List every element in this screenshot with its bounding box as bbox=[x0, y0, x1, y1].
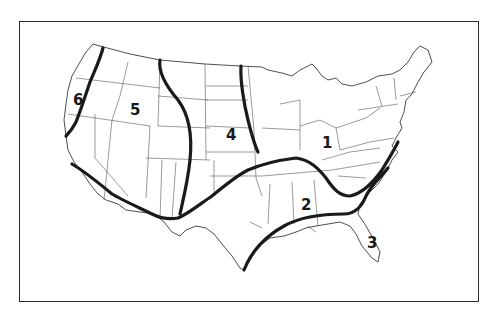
region-label-1: 1 bbox=[322, 134, 332, 152]
region-label-2: 2 bbox=[301, 196, 311, 214]
us-zone-map: 1 2 3 4 5 6 bbox=[0, 0, 498, 314]
region-label-6: 6 bbox=[73, 91, 83, 109]
region-label-3: 3 bbox=[367, 234, 377, 252]
region-label-4: 4 bbox=[226, 126, 236, 144]
region-label-5: 5 bbox=[130, 101, 140, 119]
